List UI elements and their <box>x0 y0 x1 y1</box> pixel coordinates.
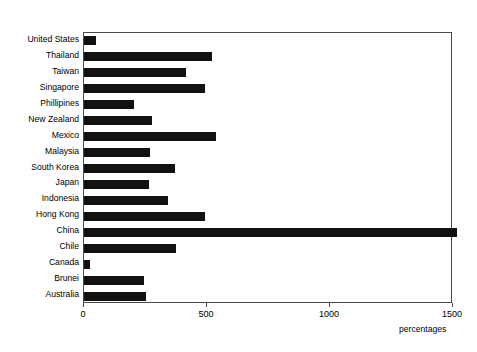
x-tick-label: 1000 <box>319 309 339 320</box>
x-tick-label: 500 <box>198 309 213 320</box>
x-axis: 050010001500 <box>83 303 452 333</box>
y-axis-label-new-zealand: New Zealand <box>0 115 79 124</box>
plot-area <box>83 32 452 303</box>
bar-row <box>84 148 451 157</box>
bar-row <box>84 228 451 237</box>
y-axis-label-indonesia: Indonesia <box>0 194 79 203</box>
bar-row <box>84 100 451 109</box>
y-axis-label-taiwan: Taiwan <box>0 67 79 76</box>
y-axis-labels: United StatesThailandTaiwanSingaporePhil… <box>0 32 79 303</box>
bar-indonesia <box>84 196 168 205</box>
x-tick-mark <box>206 303 207 307</box>
y-axis-label-thailand: Thailand <box>0 51 79 60</box>
y-axis-label-hong-kong: Hong Kong <box>0 210 79 219</box>
y-axis-label-phillipines: Phillipines <box>0 99 79 108</box>
y-axis-label-south-korea: South Korea <box>0 163 79 172</box>
bar-mexico <box>84 132 216 141</box>
x-tick-label: 0 <box>80 309 85 320</box>
bar-australia <box>84 292 146 301</box>
bar-row <box>84 116 451 125</box>
y-axis-label-japan: Japan <box>0 178 79 187</box>
bar-chile <box>84 244 176 253</box>
x-tick-mark <box>83 303 84 307</box>
bar-japan <box>84 180 149 189</box>
x-tick-mark <box>329 303 330 307</box>
bar-new-zealand <box>84 116 152 125</box>
bar-thailand <box>84 52 212 61</box>
bar-hong-kong <box>84 212 205 221</box>
y-axis-label-australia: Australia <box>0 290 79 299</box>
y-axis-label-canada: Canada <box>0 258 79 267</box>
bar-row <box>84 292 451 301</box>
bar-row <box>84 212 451 221</box>
bar-row <box>84 196 451 205</box>
x-tick-mark <box>452 303 453 307</box>
bar-row <box>84 164 451 173</box>
bar-row <box>84 260 451 269</box>
y-axis-label-singapore: Singapore <box>0 83 79 92</box>
y-axis-label-united-states: United States <box>0 35 79 44</box>
bar-row <box>84 244 451 253</box>
bar-canada <box>84 260 90 269</box>
bar-row <box>84 52 451 61</box>
y-axis-label-mexico: Mexico <box>0 131 79 140</box>
y-axis-label-chile: Chile <box>0 242 79 251</box>
bar-phillipines <box>84 100 134 109</box>
x-axis-title: percentages <box>399 324 446 334</box>
bar-chart: United StatesThailandTaiwanSingaporePhil… <box>0 0 477 352</box>
bar-taiwan <box>84 68 186 77</box>
y-axis-label-china: China <box>0 226 79 235</box>
bar-row <box>84 132 451 141</box>
bar-united-states <box>84 36 96 45</box>
bar-malaysia <box>84 148 150 157</box>
bar-row <box>84 180 451 189</box>
bar-row <box>84 276 451 285</box>
bar-brunei <box>84 276 144 285</box>
bar-singapore <box>84 84 205 93</box>
bar-row <box>84 36 451 45</box>
x-tick-label: 1500 <box>442 309 462 320</box>
y-axis-label-malaysia: Malaysia <box>0 147 79 156</box>
bar-china <box>84 228 457 237</box>
bar-south-korea <box>84 164 175 173</box>
y-axis-label-brunei: Brunei <box>0 274 79 283</box>
bar-row <box>84 84 451 93</box>
bar-row <box>84 68 451 77</box>
